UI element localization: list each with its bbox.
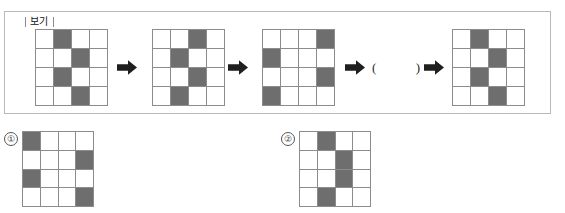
grid-cell-r3-c1	[471, 87, 488, 105]
grid-cell-r1-c0	[300, 151, 317, 169]
grid-cell-r1-c3	[76, 151, 93, 169]
grid-cell-r2-c2	[299, 68, 316, 86]
grid-cell-r1-c2	[59, 151, 76, 169]
right-arrow-icon	[424, 59, 444, 76]
grid-cell-r3-c3	[317, 87, 334, 105]
grid-cell-r3-c0	[263, 87, 280, 105]
grid-cell-r1-c1	[281, 49, 298, 67]
grid-cell-r1-c3	[90, 49, 107, 67]
grid-cell-r2-c2	[489, 68, 506, 86]
grid-cell-r1-c1	[171, 49, 188, 67]
grid-cell-r2-c0	[300, 170, 317, 188]
grid-cell-r0-c0	[453, 30, 470, 48]
grid-cell-r0-c1	[54, 30, 71, 48]
grid-cell-r0-c2	[59, 132, 76, 150]
grid-cell-r3-c1	[54, 87, 71, 105]
grid-cell-r1-c3	[207, 49, 224, 67]
example-label-group: 보기	[23, 15, 56, 29]
grid-cell-r1-c0	[453, 49, 470, 67]
grid-cell-r1-c2	[189, 49, 206, 67]
grid-cell-r3-c2	[189, 87, 206, 105]
grid-cell-r0-c2	[336, 132, 353, 150]
grid-cell-r0-c0	[300, 132, 317, 150]
sequence-grid-step-3	[262, 29, 335, 106]
sequence-grid-step-2	[152, 29, 225, 106]
grid-cell-r0-c3	[353, 132, 370, 150]
grid-cell-r2-c2	[59, 170, 76, 188]
sequence-grid-step-5	[452, 29, 525, 106]
grid-cell-r1-c1	[54, 49, 71, 67]
grid-cell-r1-c3	[507, 49, 524, 67]
grid-cell-r3-c3	[507, 87, 524, 105]
grid-cell-r0-c0	[153, 30, 170, 48]
grid-cell-r2-c0	[453, 68, 470, 86]
grid-cell-r2-c3	[207, 68, 224, 86]
paren-open: (	[372, 61, 376, 74]
grid-cell-r0-c2	[189, 30, 206, 48]
grid-cell-r2-c3	[507, 68, 524, 86]
grid-cell-r3-c2	[489, 87, 506, 105]
grid-cell-r1-c0	[23, 151, 40, 169]
grid-cell-r2-c3	[317, 68, 334, 86]
option-marker-1: ①	[4, 132, 18, 146]
grid-cell-r1-c0	[263, 49, 280, 67]
grid-cell-r2-c1	[54, 68, 71, 86]
blank-answer-parentheses[interactable]: ( )	[372, 58, 420, 76]
grid-cell-r0-c2	[72, 30, 89, 48]
grid-cell-r1-c1	[41, 151, 58, 169]
grid-cell-r0-c3	[507, 30, 524, 48]
grid-cell-r0-c3	[317, 30, 334, 48]
right-arrow-icon	[228, 59, 248, 76]
option-grid-2	[299, 131, 371, 207]
grid-cell-r1-c3	[317, 49, 334, 67]
grid-cell-r3-c0	[300, 188, 317, 206]
grid-cell-r3-c2	[72, 87, 89, 105]
grid-cell-r3-c3	[207, 87, 224, 105]
grid-cell-r0-c1	[318, 132, 335, 150]
grid-cell-r2-c1	[318, 170, 335, 188]
grid-cell-r2-c0	[23, 170, 40, 188]
option-grid-1	[22, 131, 94, 207]
grid-cell-r2-c1	[281, 68, 298, 86]
grid-cell-r3-c0	[23, 188, 40, 206]
paren-close: )	[416, 61, 420, 74]
grid-cell-r0-c1	[171, 30, 188, 48]
grid-cell-r1-c0	[36, 49, 53, 67]
grid-cell-r0-c1	[281, 30, 298, 48]
option-marker-2: ②	[281, 132, 295, 146]
grid-cell-r0-c1	[471, 30, 488, 48]
grid-cell-r3-c3	[353, 188, 370, 206]
grid-cell-r2-c2	[189, 68, 206, 86]
right-arrow-icon	[117, 59, 137, 76]
grid-cell-r3-c1	[318, 188, 335, 206]
grid-cell-r3-c1	[41, 188, 58, 206]
grid-cell-r1-c1	[318, 151, 335, 169]
grid-cell-r3-c3	[90, 87, 107, 105]
grid-cell-r1-c2	[72, 49, 89, 67]
sequence-grid-step-1	[35, 29, 108, 106]
grid-cell-r0-c0	[36, 30, 53, 48]
grid-cell-r3-c0	[153, 87, 170, 105]
grid-cell-r2-c3	[90, 68, 107, 86]
grid-cell-r3-c2	[299, 87, 316, 105]
grid-cell-r2-c2	[72, 68, 89, 86]
grid-cell-r2-c2	[336, 170, 353, 188]
grid-cell-r1-c2	[336, 151, 353, 169]
grid-cell-r3-c0	[453, 87, 470, 105]
grid-cell-r3-c1	[171, 87, 188, 105]
grid-cell-r1-c2	[489, 49, 506, 67]
grid-cell-r2-c0	[36, 68, 53, 86]
grid-cell-r2-c3	[76, 170, 93, 188]
grid-cell-r1-c0	[153, 49, 170, 67]
grid-cell-r1-c2	[299, 49, 316, 67]
grid-cell-r0-c0	[23, 132, 40, 150]
grid-cell-r2-c0	[263, 68, 280, 86]
grid-cell-r0-c3	[207, 30, 224, 48]
grid-cell-r0-c2	[299, 30, 316, 48]
grid-cell-r0-c1	[41, 132, 58, 150]
grid-cell-r2-c1	[171, 68, 188, 86]
grid-cell-r3-c0	[36, 87, 53, 105]
grid-cell-r3-c2	[59, 188, 76, 206]
grid-cell-r2-c3	[353, 170, 370, 188]
grid-cell-r2-c1	[471, 68, 488, 86]
